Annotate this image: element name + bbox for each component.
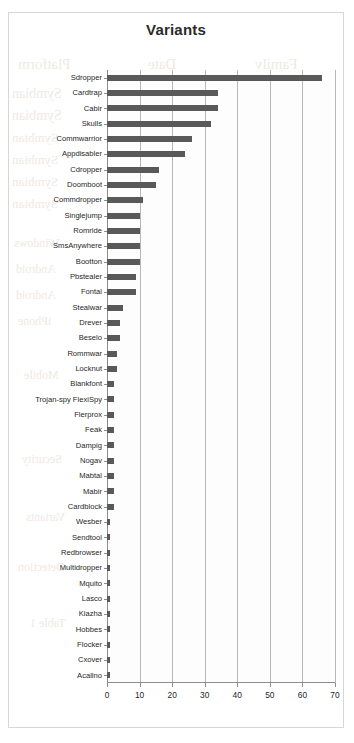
bar (107, 259, 140, 265)
x-tick-mark (172, 683, 173, 687)
y-tick-mark (104, 108, 107, 109)
x-tick-label: 20 (167, 690, 176, 700)
y-tick-mark (104, 522, 107, 523)
bar-row: Drever (107, 315, 120, 330)
y-tick-mark (104, 338, 107, 339)
bar-row: Trojan-spy FlexiSpy (107, 392, 114, 407)
gridline (302, 70, 303, 683)
bar (107, 182, 156, 188)
bar-row: Locknut (107, 361, 117, 376)
y-tick-mark (104, 476, 107, 477)
category-label: Redbrowser (61, 548, 102, 556)
y-tick-mark (104, 629, 107, 630)
gridline (205, 70, 206, 683)
category-label: Fontal (81, 288, 102, 296)
bar-row: Hobbes (107, 622, 110, 637)
x-tick-label: 0 (105, 690, 110, 700)
bar-row: Flerprox (107, 407, 114, 422)
y-tick-mark (104, 185, 107, 186)
bar-row: SmsAnywhere (107, 239, 140, 254)
bar (107, 381, 114, 387)
y-tick-mark (104, 323, 107, 324)
bar (107, 320, 120, 326)
y-tick-mark (104, 599, 107, 600)
y-tick-mark (104, 430, 107, 431)
y-tick-mark (104, 93, 107, 94)
gridline (172, 70, 173, 683)
category-label: Sdropper (71, 73, 102, 81)
chart-title: Variants (9, 21, 343, 38)
bar-row: Pbstealer (107, 269, 136, 284)
bar (107, 243, 140, 249)
category-label: Acallno (77, 671, 102, 679)
bar (107, 396, 114, 402)
y-tick-mark (104, 568, 107, 569)
bar-row: Sendtool (107, 530, 110, 545)
bar (107, 534, 110, 540)
category-label: Cardtrap (72, 89, 102, 97)
y-tick-mark (104, 246, 107, 247)
y-tick-mark (104, 277, 107, 278)
x-tick-mark (205, 683, 206, 687)
category-label: Cardblock (68, 502, 102, 510)
category-label: Stealwar (72, 303, 102, 311)
x-tick-label: 30 (200, 690, 209, 700)
category-label: Skulls (82, 119, 102, 127)
category-label: Locknut (75, 365, 102, 373)
y-tick-mark (104, 675, 107, 676)
y-tick-mark (104, 645, 107, 646)
x-tick-label: 10 (135, 690, 144, 700)
y-tick-mark (104, 537, 107, 538)
bar (107, 580, 110, 586)
category-label: Pbstealer (70, 273, 102, 281)
y-tick-mark (104, 262, 107, 263)
y-tick-mark (104, 399, 107, 400)
bar (107, 442, 114, 448)
bar (107, 274, 136, 280)
bar-row: Cardblock (107, 499, 114, 514)
bar-row: Acallno (107, 668, 110, 683)
bar (107, 366, 117, 372)
y-tick-mark (104, 231, 107, 232)
bar-row: Cxover (107, 652, 110, 667)
category-label: Flerprox (74, 411, 102, 419)
bar (107, 657, 110, 663)
y-tick-mark (104, 139, 107, 140)
bar-row: Beselo (107, 331, 120, 346)
category-label: Nogav (80, 456, 102, 464)
y-tick-mark (104, 445, 107, 446)
bar-row: Mabir (107, 484, 114, 499)
y-tick-mark (104, 170, 107, 171)
bar-row: Cardtrap (107, 85, 218, 100)
bar-row: Singlejump (107, 208, 140, 223)
category-label: Mabtal (79, 472, 102, 480)
bar-row: Flocker (107, 637, 110, 652)
bar-row: Fontal (107, 285, 136, 300)
x-tick-label: 60 (298, 690, 307, 700)
category-label: Drever (79, 319, 102, 327)
bar-row: Bootton (107, 254, 140, 269)
chart-container: Variants SdropperCardtrapCabirSkullsComm… (8, 12, 344, 728)
category-label: Flocker (77, 640, 102, 648)
category-label: Hobbes (76, 625, 102, 633)
category-label: Singlejump (64, 211, 102, 219)
bar (107, 197, 143, 203)
y-tick-mark (104, 154, 107, 155)
bar-row: Commdropper (107, 193, 143, 208)
bar-row: Rommwar (107, 346, 117, 361)
bar (107, 427, 114, 433)
bar-row: Blankfont (107, 377, 114, 392)
bar-row: Redbrowser (107, 545, 110, 560)
category-label: Doomboot (67, 181, 102, 189)
bar-row: Appdisabler (107, 147, 185, 162)
bar-row: Nogav (107, 453, 114, 468)
y-tick-mark (104, 308, 107, 309)
bar (107, 565, 110, 571)
bar (107, 335, 120, 341)
x-tick-label: 40 (233, 690, 242, 700)
gridline (270, 70, 271, 683)
bar (107, 458, 114, 464)
bar-row: Multidropper (107, 560, 110, 575)
bar-row: Kiazha (107, 606, 110, 621)
bar (107, 519, 110, 525)
